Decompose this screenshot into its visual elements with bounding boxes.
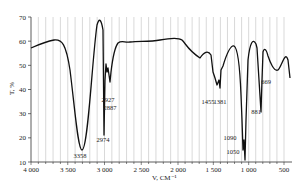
peak-label: 669 [261,78,271,85]
x-tick-label: 1 500 [205,166,221,174]
y-tick-label: 50 [19,62,27,70]
y-tick-label: 60 [19,38,27,46]
x-axis-title: V, CM⁻¹ [152,174,177,182]
peak-label: 1381 [214,98,227,105]
x-tick-label: 4 000 [23,166,39,174]
x-tick-label: 2 500 [133,166,149,174]
x-tick-label: 1 000 [241,166,257,174]
peak-label: 1090 [224,134,237,141]
peak-label: 881 [251,108,261,115]
peak-label: 3358 [74,152,87,159]
axes [31,17,292,162]
y-axis-ticks: 10203040506070 [19,14,31,167]
peak-label: 2974 [97,136,111,143]
peak-label: 1050 [227,148,240,155]
x-tick-label: 2 000 [170,166,186,174]
peak-label: 2927 [102,96,116,103]
x-tick-label: 3 500 [60,166,76,174]
y-tick-label: 20 [19,134,27,142]
y-tick-label: 70 [19,14,27,22]
ir-spectrum-chart: 10203040506070 4 0003 5003 0002 5002 000… [0,0,300,190]
spectrum-line [31,20,290,160]
x-axis-ticks: 4 0003 5003 0002 5002 0001 5001 000500 [23,162,290,174]
y-tick-label: 30 [19,110,27,118]
y-axis-title: T, % [8,82,16,95]
x-tick-label: 500 [279,166,290,174]
y-tick-label: 40 [19,86,27,94]
peak-label: 2887 [104,104,118,111]
x-tick-label: 3 000 [97,166,113,174]
